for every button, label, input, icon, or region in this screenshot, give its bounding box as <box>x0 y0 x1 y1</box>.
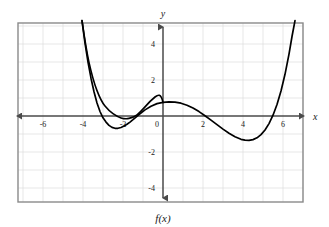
x-tick-label-6: 6 <box>281 120 285 129</box>
x-tick-label-neg4: -4 <box>80 120 87 129</box>
y-tick-label-2: 2 <box>151 76 155 85</box>
graph-figure: -6 -4 -2 0 2 4 6 4 2 -2 -4 x y f(x) <box>0 0 329 227</box>
y-axis-label: y <box>160 8 166 19</box>
y-tick-label-4: 4 <box>151 40 155 49</box>
x-axis-label: x <box>312 111 318 122</box>
x-tick-label-4: 4 <box>241 120 245 129</box>
x-tick-label-neg6: -6 <box>40 120 47 129</box>
y-tick-label-neg4: -4 <box>148 184 155 193</box>
x-tick-label-zero: 0 <box>155 120 159 129</box>
y-tick-label-neg2: -2 <box>148 148 155 157</box>
coordinate-plane: -6 -4 -2 0 2 4 6 4 2 -2 -4 x y f(x) <box>0 0 329 227</box>
x-tick-label-2: 2 <box>201 120 205 129</box>
plot-background <box>18 23 303 202</box>
function-caption: f(x) <box>155 212 171 225</box>
